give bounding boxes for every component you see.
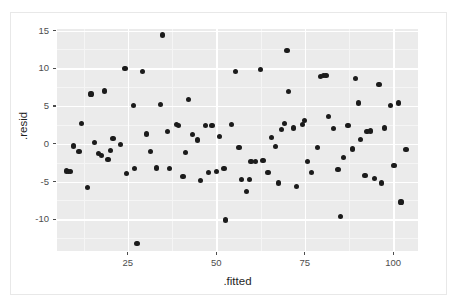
y-tick-mark [53,181,56,182]
data-point [350,146,355,151]
data-point [302,118,307,123]
data-point [233,69,238,74]
gridline [57,31,418,32]
data-point [132,166,137,171]
y-tick-label: 10 [38,63,49,73]
data-point [160,32,165,37]
data-point [85,185,90,190]
data-point [217,134,222,139]
gridline [57,238,418,239]
y-tick-mark [53,30,56,31]
data-point [165,129,170,134]
gridline [57,125,418,126]
y-tick-label: -5 [41,177,49,187]
y-tick-label: -10 [35,214,49,224]
data-point [244,189,249,194]
x-tick-label: 75 [285,257,325,268]
data-point [68,169,73,174]
data-point [294,184,299,189]
data-point [396,100,401,105]
x-tick-mark [393,252,394,255]
data-point [223,217,228,222]
y-tick-mark [53,68,56,69]
data-point [388,103,393,108]
data-point [190,132,195,137]
gridline [261,29,262,251]
data-point [356,100,361,105]
data-point [309,170,314,175]
x-tick-label: 50 [196,257,236,268]
data-point [341,155,346,160]
data-point [382,125,387,130]
data-point [282,121,287,126]
gridline [172,29,173,251]
data-point [284,48,289,53]
data-point [108,148,113,153]
y-tick-mark [53,143,56,144]
data-point [214,169,219,174]
data-point [180,174,185,179]
data-point [176,123,181,128]
data-point [221,166,226,171]
gridline [393,29,394,251]
data-point [140,69,145,74]
data-point [305,159,310,164]
data-point [105,157,110,162]
data-point [206,170,211,175]
data-point [286,89,291,94]
gridline [57,87,418,88]
scatter-plot-figure: 151050-5-10 255075100 .fitted .resid [11,13,448,296]
data-point [144,131,149,136]
data-point [131,103,136,108]
data-point [102,88,107,93]
gridline [128,29,129,251]
data-point [403,147,408,152]
data-point [186,97,191,102]
data-point [362,173,367,178]
plot-card: 151050-5-10 255075100 .fitted .resid [10,12,447,295]
data-point [253,159,258,164]
data-point [195,137,200,142]
gridline [349,29,350,251]
x-tick-mark [304,252,305,255]
x-tick-label: 25 [108,257,148,268]
gridline [57,219,418,220]
data-point [122,66,127,71]
data-point [76,149,81,154]
data-point [398,199,403,204]
data-point [134,241,139,246]
data-point [88,91,93,96]
data-point [236,145,241,150]
data-point [326,114,331,119]
data-point [315,145,320,150]
data-point [368,128,373,133]
data-point [379,180,384,185]
gridline [57,182,418,183]
data-point [258,67,263,72]
data-point [260,158,265,163]
y-tick-mark [53,105,56,106]
data-point [331,126,336,131]
data-point [291,125,296,130]
y-axis-title: .resid [17,112,29,140]
gridline [57,163,418,164]
data-point [269,135,274,140]
x-axis-title: .fitted [57,275,418,287]
data-point [110,136,115,141]
data-point [118,142,123,147]
gridline [57,106,418,107]
data-point [183,150,188,155]
data-point [71,143,76,148]
data-point [158,102,163,107]
data-point [279,127,284,132]
data-point [247,177,252,182]
plot-panel [57,29,418,251]
data-point [265,170,270,175]
data-point [372,176,377,181]
y-tick-mark [53,219,56,220]
data-point [391,163,396,168]
data-point [203,123,208,128]
gridline [57,200,418,201]
data-point [154,165,159,170]
data-point [358,137,363,142]
